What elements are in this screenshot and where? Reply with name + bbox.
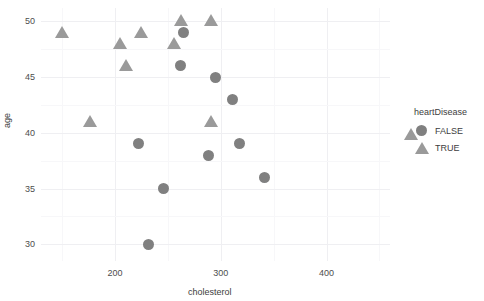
data-point-false[interactable] bbox=[227, 94, 238, 105]
legend: heartDisease FALSETRUE bbox=[414, 107, 484, 157]
legend-item-false[interactable]: FALSE bbox=[414, 123, 484, 138]
x-tick-label: 400 bbox=[307, 268, 347, 278]
legend-item-label: FALSE bbox=[435, 126, 463, 136]
x-axis-title: cholesterol bbox=[188, 287, 232, 297]
data-point-true[interactable] bbox=[204, 115, 218, 127]
y-tick-label: 40 bbox=[9, 128, 35, 138]
y-tick-label: 35 bbox=[9, 184, 35, 194]
y-tick-label: 50 bbox=[9, 16, 35, 26]
data-point-true[interactable] bbox=[113, 37, 127, 49]
gridline-major-vertical bbox=[221, 8, 222, 261]
legend-title: heartDisease bbox=[414, 107, 484, 117]
data-point-false[interactable] bbox=[203, 150, 214, 161]
gridline-minor-vertical bbox=[274, 8, 275, 261]
gridline-major-horizontal bbox=[41, 133, 390, 134]
legend-triangle-icon bbox=[414, 140, 430, 155]
gridline-minor-horizontal bbox=[41, 216, 390, 217]
scatter-plot-figure: 3035404550 200300400 age cholesterol hea… bbox=[0, 0, 484, 301]
gridline-minor-horizontal bbox=[41, 105, 390, 106]
legend-item-true[interactable]: TRUE bbox=[414, 140, 484, 155]
gridline-minor-vertical bbox=[379, 8, 380, 261]
data-point-false[interactable] bbox=[210, 72, 221, 83]
gridline-minor-vertical bbox=[62, 8, 63, 261]
data-point-false[interactable] bbox=[175, 60, 186, 71]
data-point-false[interactable] bbox=[133, 138, 144, 149]
x-tick-label: 200 bbox=[95, 268, 135, 278]
legend-item-label: TRUE bbox=[435, 143, 460, 153]
data-point-true[interactable] bbox=[174, 14, 188, 26]
y-axis-title: age bbox=[2, 113, 12, 128]
legend-circle-icon bbox=[414, 123, 430, 138]
data-point-true[interactable] bbox=[134, 26, 148, 38]
data-point-true[interactable] bbox=[83, 115, 97, 127]
gridline-minor-horizontal bbox=[41, 49, 390, 50]
data-point-true[interactable] bbox=[119, 59, 133, 71]
gridline-minor-horizontal bbox=[41, 161, 390, 162]
legend-items: FALSETRUE bbox=[414, 123, 484, 155]
gridline-major-horizontal bbox=[41, 189, 390, 190]
data-point-true[interactable] bbox=[204, 14, 218, 26]
data-point-false[interactable] bbox=[259, 172, 270, 183]
gridline-major-vertical bbox=[327, 8, 328, 261]
data-point-true[interactable] bbox=[55, 26, 69, 38]
gridline-major-horizontal bbox=[41, 244, 390, 245]
y-tick-label: 45 bbox=[9, 72, 35, 82]
data-point-true[interactable] bbox=[167, 37, 181, 49]
x-tick-label: 300 bbox=[201, 268, 241, 278]
y-tick-label: 30 bbox=[9, 239, 35, 249]
data-point-false[interactable] bbox=[143, 239, 154, 250]
data-point-false[interactable] bbox=[234, 138, 245, 149]
plot-panel bbox=[41, 8, 390, 261]
